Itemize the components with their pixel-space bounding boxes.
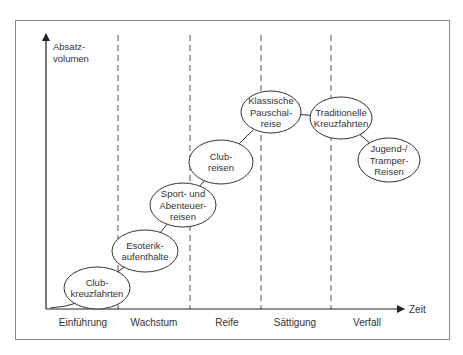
node-label-line: Klassische xyxy=(248,95,293,106)
node-pauschalreise: KlassischePauschal-reise xyxy=(241,91,301,133)
node-label-line: reise xyxy=(261,118,282,129)
x-axis-label: Zeit xyxy=(409,304,426,315)
phase-label: Reife xyxy=(215,317,239,328)
product-lifecycle-diagram: Absatz- volumen Zeit Club-kreuzfahrtenEs… xyxy=(0,0,463,355)
node-label-line: Club- xyxy=(210,151,233,162)
connector-kreuzfahrten-jugend xyxy=(360,135,369,143)
node-label-line: Sport- und xyxy=(161,188,205,199)
lifecycle-nodes: Club-kreuzfahrtenEsoterik-aufenthalteSpo… xyxy=(64,91,420,309)
connector-clubreisen-pauschalreise xyxy=(239,129,254,144)
node-label-line: aufenthalte xyxy=(121,251,168,262)
node-label-line: Esoterik- xyxy=(126,240,163,251)
y-axis-label-line2: volumen xyxy=(53,53,89,64)
node-label-line: reisen xyxy=(170,211,196,222)
phase-labels: EinführungWachstumReifeSättigungVerfall xyxy=(59,317,381,328)
node-label-line: Abenteuer- xyxy=(159,200,206,211)
node-label-line: Reisen xyxy=(374,166,404,177)
node-label-line: Club- xyxy=(86,277,109,288)
node-label-line: Pauschal- xyxy=(250,107,292,118)
node-clubkreuzfahrten: Club-kreuzfahrten xyxy=(64,267,130,309)
node-label-line: Tramper- xyxy=(370,155,409,166)
node-sport: Sport- undAbenteuer-reisen xyxy=(150,183,216,227)
connector-sport-clubreisen xyxy=(200,181,205,186)
connector-esoterik-sport xyxy=(160,224,167,232)
node-label-line: Traditionelle xyxy=(315,107,366,118)
phase-label: Wachstum xyxy=(131,317,178,328)
y-axis-label-line1: Absatz- xyxy=(53,41,85,52)
phase-label: Verfall xyxy=(353,317,381,328)
node-esoterik: Esoterik-aufenthalte xyxy=(112,230,178,272)
node-label-line: Jugend-/ xyxy=(371,143,408,154)
node-clubreisen: Club-reisen xyxy=(189,140,253,184)
node-label-line: Kreuzfahrten xyxy=(314,118,368,129)
node-jugend: Jugend-/Tramper-Reisen xyxy=(358,138,420,182)
phase-label: Sättigung xyxy=(274,317,316,328)
phase-label: Einführung xyxy=(59,317,107,328)
connector-clubkreuzfahrten-esoterik xyxy=(118,267,124,272)
node-label-line: kreuzfahrten xyxy=(71,288,124,299)
node-label-line: reisen xyxy=(208,162,234,173)
node-kreuzfahrten: TraditionelleKreuzfahrten xyxy=(310,97,372,139)
connector-pauschalreise-kreuzfahrten xyxy=(301,115,310,116)
